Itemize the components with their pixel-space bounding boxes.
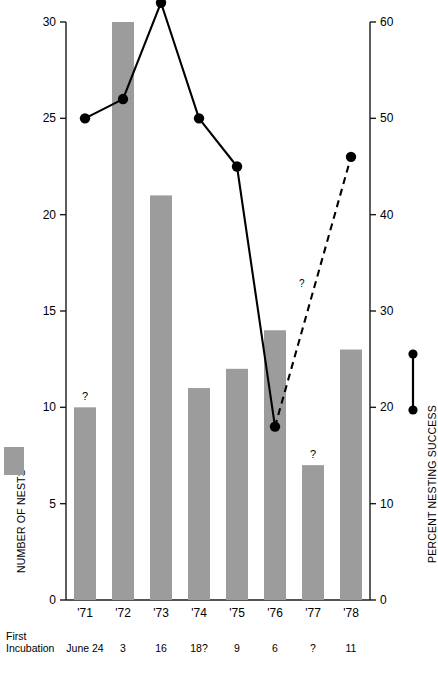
x-axis-tick-label: '76 [255, 606, 295, 620]
left-axis-tick-label: 15 [30, 305, 56, 317]
right-axis-tick-label: 30 [380, 305, 406, 317]
first-incubation-label: First Incubation [6, 630, 72, 654]
first-incubation-value: 16 [141, 642, 181, 654]
first-incubation-label-line2: Incubation [6, 642, 54, 654]
bar-question-mark: ? [303, 448, 323, 460]
left-axis-tick-label: 0 [30, 594, 56, 606]
right-axis-ticks [370, 22, 376, 600]
x-axis-tick-label: '74 [179, 606, 219, 620]
right-axis-tick-label: 20 [380, 401, 406, 413]
line-data-point [156, 0, 166, 8]
right-axis-tick-label: 0 [380, 594, 406, 606]
left-axis-ticks [60, 22, 66, 600]
bar [150, 195, 172, 600]
first-incubation-value: 11 [331, 642, 371, 654]
left-axis-tick-label: 10 [30, 401, 56, 413]
left-axis-tick-label: 5 [30, 498, 56, 510]
x-axis-tick-label: '72 [103, 606, 143, 620]
line-series-dashed-segment [275, 157, 351, 427]
first-incubation-value: 6 [255, 642, 295, 654]
bar [340, 350, 362, 600]
bar [188, 388, 210, 600]
line-data-point [346, 152, 356, 162]
first-incubation-value: 9 [217, 642, 257, 654]
first-incubation-label-line1: First [6, 630, 26, 642]
first-incubation-value: 3 [103, 642, 143, 654]
x-axis-tick-label: '78 [331, 606, 371, 620]
right-axis-tick-label: 50 [380, 112, 406, 124]
x-axis-tick-label: '75 [217, 606, 257, 620]
bar-series-number-of-nests [74, 22, 362, 600]
bar-question-mark: ? [75, 390, 95, 402]
first-incubation-value: June 24 [65, 642, 105, 654]
bar [302, 465, 324, 600]
bar [226, 369, 248, 600]
left-axis-tick-label: 30 [30, 16, 56, 28]
bar [74, 407, 96, 600]
left-axis-tick-label: 20 [30, 209, 56, 221]
x-axis-tick-label: '77 [293, 606, 333, 620]
line-data-point [80, 113, 90, 123]
x-axis-tick-label: '71 [65, 606, 105, 620]
right-axis-tick-label: 10 [380, 498, 406, 510]
first-incubation-value: ? [293, 642, 333, 654]
line-data-point [232, 161, 242, 171]
dashed-segment-question-annotation: ? [299, 278, 305, 289]
right-axis-tick-label: 60 [380, 16, 406, 28]
bar [112, 22, 134, 600]
first-incubation-value: 18? [179, 642, 219, 654]
left-axis-tick-label: 25 [30, 112, 56, 124]
line-data-point [194, 113, 204, 123]
line-data-point [270, 421, 280, 431]
right-axis-tick-label: 40 [380, 209, 406, 221]
x-axis-tick-label: '73 [141, 606, 181, 620]
line-data-point [118, 94, 128, 104]
